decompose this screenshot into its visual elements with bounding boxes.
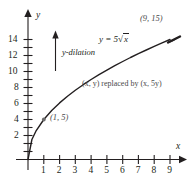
y-tick-label-8: 8 [14, 83, 19, 93]
x-axis [16, 155, 187, 164]
y-axis-label: y [36, 11, 40, 21]
graph-figure: 14 12 10 8 6 4 2 1 2 3 4 5 6 7 8 9 y x y… [0, 0, 193, 185]
x-tick-label-4: 4 [88, 166, 93, 176]
data-point-1-5 [42, 118, 46, 122]
x-tick-label-7: 7 [136, 166, 141, 176]
point-label-9-15: (9, 15) [140, 14, 163, 23]
x-tick-label-1: 1 [41, 166, 46, 176]
y-tick-label-12: 12 [8, 51, 18, 61]
graph-canvas [0, 0, 193, 185]
y-tick-label-14: 14 [8, 35, 18, 45]
mapping-note-label: (x, y) replaced by (x, 5y) [82, 80, 162, 88]
curve-equation-label: y = 5√x [99, 35, 129, 44]
x-tick-label-9: 9 [167, 166, 172, 176]
point-label-1-5: (1, 5) [50, 113, 68, 122]
y-tick-label-10: 10 [8, 67, 18, 77]
x-tick-label-2: 2 [57, 166, 62, 176]
curve-y-equals-5-sqrt-x [28, 36, 181, 160]
x-tick-label-8: 8 [152, 166, 157, 176]
curve-equation-lhs: y = 5 [99, 34, 118, 44]
y-tick-label-2: 2 [14, 131, 19, 141]
x-tick-label-6: 6 [120, 166, 125, 176]
x-tick-label-5: 5 [104, 166, 109, 176]
y-dilation-label: y-dilation [62, 48, 95, 57]
y-tick-label-4: 4 [14, 115, 19, 125]
y-dilation-arrow [52, 31, 58, 72]
x-tick-label-3: 3 [73, 166, 78, 176]
y-tick-label-6: 6 [14, 99, 19, 109]
x-axis-label: x [176, 142, 180, 152]
curve-equation-radicand: x [123, 33, 129, 44]
